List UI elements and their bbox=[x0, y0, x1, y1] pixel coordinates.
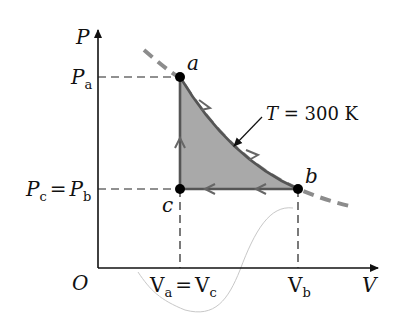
point-b-label: b bbox=[305, 164, 318, 188]
v-axis-label: V bbox=[362, 273, 379, 297]
p-axis-label: P bbox=[75, 25, 90, 49]
pv-diagram: P V O a b c T = 300 K Pa Pc=Pb Va=Vc Vb bbox=[0, 0, 394, 327]
isotherm-label-rest: = 300 K bbox=[278, 103, 359, 124]
point-c bbox=[175, 184, 185, 194]
origin-label: O bbox=[72, 271, 88, 295]
isotherm-label: T = 300 K bbox=[266, 103, 359, 124]
va-vc-label: Va=Vc bbox=[149, 273, 217, 300]
pa-label: Pa bbox=[70, 65, 92, 92]
isotherm-pointer bbox=[234, 117, 262, 146]
vb-label: Vb bbox=[287, 273, 311, 300]
pc-pb-label: Pc=Pb bbox=[25, 177, 91, 204]
point-a-label: a bbox=[187, 51, 199, 75]
point-c-label: c bbox=[162, 193, 173, 217]
point-b bbox=[293, 184, 303, 194]
point-a bbox=[175, 72, 185, 82]
cycle-area bbox=[180, 77, 298, 189]
